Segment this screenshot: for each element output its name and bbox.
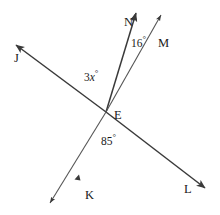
ray-el xyxy=(106,112,205,188)
vertex-label-e: E xyxy=(114,109,122,122)
point-label-j: J xyxy=(14,52,19,65)
angle-nem-degree-symbol: ° xyxy=(143,34,147,44)
point-label-k: K xyxy=(85,189,94,202)
line-jl xyxy=(16,45,205,188)
ray-em xyxy=(106,15,161,112)
angle-kel-degree-symbol: ° xyxy=(113,132,117,142)
point-label-n: N xyxy=(124,16,133,29)
ray-ek-midpoint-arrowhead xyxy=(75,175,81,181)
ray-ek xyxy=(50,112,106,203)
point-label-m: M xyxy=(158,37,169,50)
angle-jen-degree-symbol: ° xyxy=(95,68,99,78)
angle-label-jen: 3x° xyxy=(84,72,98,84)
angle-kel-value: 85 xyxy=(101,135,113,147)
angle-label-kel: 85° xyxy=(101,136,116,148)
angle-label-nem: 16° xyxy=(131,38,146,50)
angle-nem-value: 16 xyxy=(131,37,143,49)
geometry-diagram: N M J K L E 16° 3x° 85° xyxy=(0,0,220,215)
point-label-l: L xyxy=(184,183,192,196)
